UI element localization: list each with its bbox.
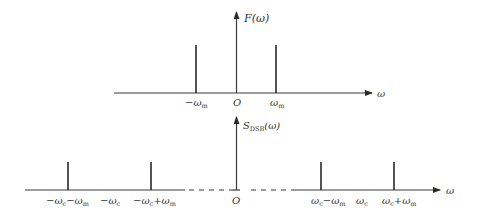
top-tick-neg-wm: −ωm <box>185 97 208 110</box>
bottom-tick-neg-wc: −ωc <box>100 195 121 208</box>
top-origin-label: O <box>233 97 241 108</box>
bottom-tick-neg-wc-minus-wm: −ωc−ωm <box>46 195 89 208</box>
bottom-tick-neg-wc-plus-wm: −ωc+ωm <box>133 195 176 208</box>
bottom-tick-wc: ωc <box>356 195 368 208</box>
bottom-plot: SDSB(ω) ω O −ωc−ωm −ωc −ωc+ωm ωc−ωm ωc ω… <box>25 117 454 208</box>
bottom-tick-wc-plus-wm: ωc+ωm <box>382 195 417 208</box>
bottom-tick-wc-minus-wm: ωc−ωm <box>311 195 346 208</box>
top-plot: F(ω) ω O −ωm ωm <box>114 12 385 110</box>
dsb-spectrum-diagram: F(ω) ω O −ωm ωm SDSB(ω) ω O −ωc−ωm −ωc −… <box>0 0 477 222</box>
top-tick-pos-wm: ωm <box>270 97 284 110</box>
bottom-origin-label: O <box>232 195 240 206</box>
top-x-label: ω <box>377 88 385 99</box>
top-y-label: F(ω) <box>243 12 269 25</box>
bottom-y-label: SDSB(ω) <box>243 120 280 133</box>
bottom-x-label: ω <box>446 185 454 196</box>
